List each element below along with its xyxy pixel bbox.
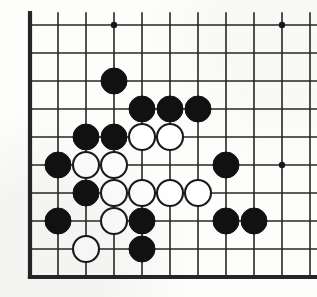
- black-stone-c9-r8[interactable]: [241, 208, 267, 234]
- black-stone-c5-r8[interactable]: [129, 208, 155, 234]
- white-stone-c3-r9[interactable]: [73, 236, 99, 262]
- black-stone-c4-r5[interactable]: [101, 124, 127, 150]
- star-point-3: [279, 162, 285, 168]
- white-stone-c5-r7[interactable]: [129, 180, 155, 206]
- black-stone-c5-r4[interactable]: [129, 96, 155, 122]
- go-board-diagram: [0, 0, 317, 297]
- star-point-1: [111, 22, 117, 28]
- board-background: [0, 0, 317, 297]
- black-stone-c4-r3[interactable]: [101, 68, 127, 94]
- white-stone-c6-r7[interactable]: [157, 180, 183, 206]
- black-stone-c3-r5[interactable]: [73, 124, 99, 150]
- black-stone-c7-r4[interactable]: [185, 96, 211, 122]
- white-stone-c4-r7[interactable]: [101, 180, 127, 206]
- white-stone-c3-r6[interactable]: [73, 152, 99, 178]
- go-board-canvas[interactable]: [0, 0, 317, 297]
- white-stone-c4-r8[interactable]: [101, 208, 127, 234]
- star-point-2: [279, 22, 285, 28]
- black-stone-c8-r8[interactable]: [213, 208, 239, 234]
- black-stone-c2-r8[interactable]: [45, 208, 71, 234]
- white-stone-c4-r6[interactable]: [101, 152, 127, 178]
- black-stone-c5-r9[interactable]: [129, 236, 155, 262]
- black-stone-c8-r6[interactable]: [213, 152, 239, 178]
- black-stone-c2-r6[interactable]: [45, 152, 71, 178]
- black-stone-c6-r4[interactable]: [157, 96, 183, 122]
- white-stone-c6-r5[interactable]: [157, 124, 183, 150]
- black-stone-c3-r7[interactable]: [73, 180, 99, 206]
- white-stone-c5-r5[interactable]: [129, 124, 155, 150]
- white-stone-c7-r7[interactable]: [185, 180, 211, 206]
